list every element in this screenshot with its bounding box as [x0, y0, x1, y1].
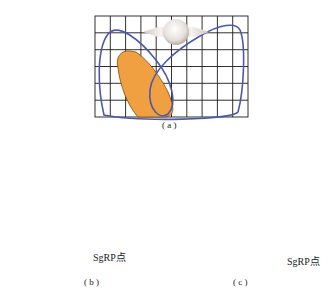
- panel-a-caption: ( a ): [162, 120, 177, 130]
- sgrp-label-b: SgRP点: [92, 249, 127, 264]
- panel-b-caption: ( b ): [84, 277, 99, 287]
- diagram-canvas: [0, 0, 334, 296]
- panel-c-caption: ( c ): [233, 277, 248, 287]
- panel-a: [95, 16, 248, 119]
- occupant-figure-top: [143, 19, 209, 45]
- sgrp-label-c: SgRP点: [287, 253, 320, 268]
